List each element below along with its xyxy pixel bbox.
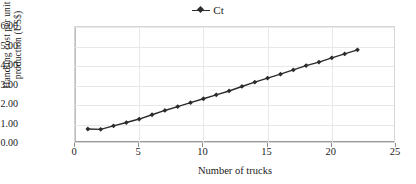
data-point-marker	[227, 89, 232, 94]
x-axis-tick-label: 15	[254, 146, 280, 157]
data-point-marker	[188, 100, 193, 105]
x-axis-tick-mark	[74, 143, 75, 147]
data-point-marker	[317, 60, 322, 65]
data-point-marker	[162, 108, 167, 113]
y-axis-tick-label: 4.00	[0, 60, 18, 70]
data-point-marker	[98, 127, 103, 132]
data-point-marker	[124, 120, 129, 125]
data-point-marker	[252, 80, 257, 85]
x-axis-title: Number of trucks	[74, 165, 396, 177]
y-axis-tick-label: 3.00	[0, 80, 18, 90]
data-point-marker	[304, 63, 309, 68]
legend-diamond-marker-icon	[197, 6, 204, 13]
x-axis-tick-label: 25	[382, 146, 408, 157]
data-point-marker	[355, 47, 360, 52]
x-axis-tick-label: 20	[318, 146, 344, 157]
data-point-marker	[85, 127, 90, 132]
y-axis-tick-label: 6.00	[0, 21, 18, 31]
x-axis-tick-mark	[331, 143, 332, 147]
data-point-marker	[329, 55, 334, 60]
x-axis-tick-mark	[395, 143, 396, 147]
plot-area	[74, 26, 395, 143]
data-series-ct	[75, 27, 396, 144]
x-axis-tick-label: 5	[125, 146, 151, 157]
data-point-marker	[150, 112, 155, 117]
data-point-marker	[175, 104, 180, 109]
x-axis-tick-label: 0	[61, 146, 87, 157]
data-point-marker	[201, 96, 206, 101]
data-point-marker	[111, 123, 116, 128]
data-point-marker	[278, 72, 283, 77]
x-axis-tick-mark	[267, 143, 268, 147]
data-point-marker	[137, 117, 142, 122]
y-axis-tick-label: 2.00	[0, 99, 18, 109]
legend-line-marker-icon	[192, 5, 210, 15]
data-point-marker	[342, 52, 347, 57]
chart-legend: Ct	[0, 2, 416, 18]
x-axis-tick-mark	[138, 143, 139, 147]
x-axis-tick-label: 10	[189, 146, 215, 157]
data-point-marker	[291, 67, 296, 72]
y-axis-tick-label: 1.00	[0, 119, 18, 129]
y-axis-tick-label: 0.00	[0, 138, 18, 148]
legend-item-label-ct: Ct	[213, 5, 223, 16]
data-point-marker	[265, 76, 270, 81]
x-axis-tick-mark	[202, 143, 203, 147]
data-point-marker	[240, 84, 245, 89]
chart-container: Ct Handling cost per unit production (US…	[0, 0, 416, 184]
y-axis-tick-label: 5.00	[0, 41, 18, 51]
data-point-marker	[214, 92, 219, 97]
